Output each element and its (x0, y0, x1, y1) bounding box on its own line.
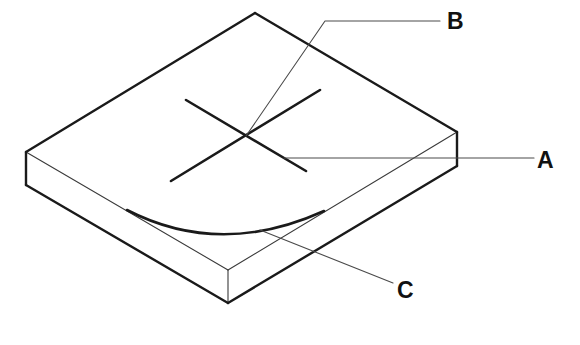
slab-diagram: B A C (0, 0, 580, 345)
slab-bottom-left-edge (26, 185, 228, 303)
label-b: B (447, 8, 464, 34)
slab-bottom-right-edge (228, 166, 457, 303)
label-a: A (537, 147, 554, 173)
curved-arc (127, 210, 324, 234)
slab-top-back-left-edge (26, 13, 255, 152)
label-c: C (397, 277, 414, 303)
leader-line-c (260, 230, 393, 283)
slab-top-front-right-edge (228, 132, 457, 270)
slab-top-back-right-edge (255, 13, 457, 132)
